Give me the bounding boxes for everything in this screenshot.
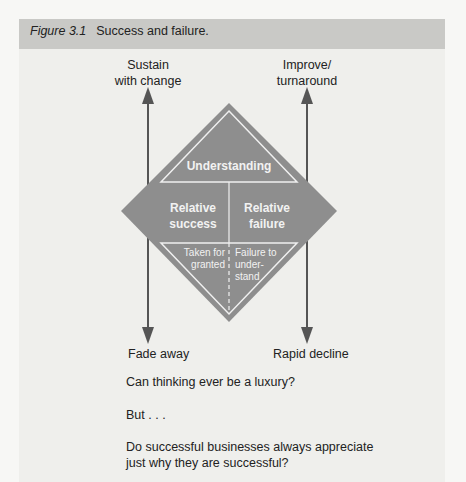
- relative-failure-line1: Relative: [234, 200, 300, 216]
- label-taken-for-granted: Taken for granted: [177, 247, 225, 271]
- label-rapid-decline: Rapid decline: [273, 346, 349, 362]
- question-luxury: Can thinking ever be a luxury?: [126, 374, 295, 390]
- relative-failure-line2: failure: [234, 216, 300, 232]
- taken-for-granted-line1: Taken for: [177, 247, 225, 259]
- question-successful: Do successful businesses always apprecia…: [126, 439, 373, 471]
- failure-to-understand-line3: stand: [235, 271, 295, 283]
- diagram-graphic: [0, 0, 466, 482]
- label-improve-line2: turnaround: [257, 73, 357, 89]
- relative-success-line2: success: [160, 216, 226, 232]
- failure-to-understand-line2: under-: [235, 259, 295, 271]
- question-successful-line1: Do successful businesses always apprecia…: [126, 439, 373, 455]
- label-failure-to-understand: Failure to under- stand: [235, 247, 295, 283]
- question-but: But . . .: [126, 407, 166, 423]
- question-successful-line2: just why they are successful?: [126, 455, 373, 471]
- label-sustain-line1: Sustain: [98, 57, 198, 73]
- label-improve-line1: Improve/: [257, 57, 357, 73]
- label-fade-away: Fade away: [128, 346, 189, 362]
- failure-to-understand-line1: Failure to: [235, 247, 295, 259]
- label-understanding: Understanding: [179, 159, 279, 173]
- label-relative-failure: Relative failure: [234, 200, 300, 232]
- label-relative-success: Relative success: [160, 200, 226, 232]
- label-sustain: Sustain with change: [98, 57, 198, 89]
- label-improve: Improve/ turnaround: [257, 57, 357, 89]
- relative-success-line1: Relative: [160, 200, 226, 216]
- taken-for-granted-line2: granted: [177, 259, 225, 271]
- label-sustain-line2: with change: [98, 73, 198, 89]
